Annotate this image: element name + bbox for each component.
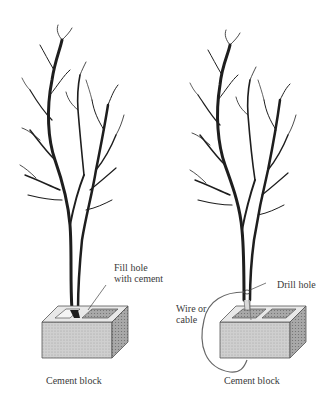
right-tree — [190, 30, 296, 300]
fill-hole-callout-line2: with cement — [114, 273, 163, 284]
wire-callout-line1: Wire or — [176, 303, 206, 314]
drill-hole-callout: Drill hole — [277, 279, 316, 290]
right-cement-block — [220, 306, 306, 358]
fill-hole-callout-line1: Fill hole — [114, 262, 148, 273]
right-callout-line — [250, 283, 266, 290]
illustration — [0, 0, 332, 400]
left-cement-block — [42, 306, 128, 358]
right-caption: Cement block — [224, 375, 280, 386]
wire-callout-line2: cable — [176, 314, 197, 325]
left-caption: Cement block — [46, 375, 102, 386]
left-tree — [20, 25, 124, 310]
